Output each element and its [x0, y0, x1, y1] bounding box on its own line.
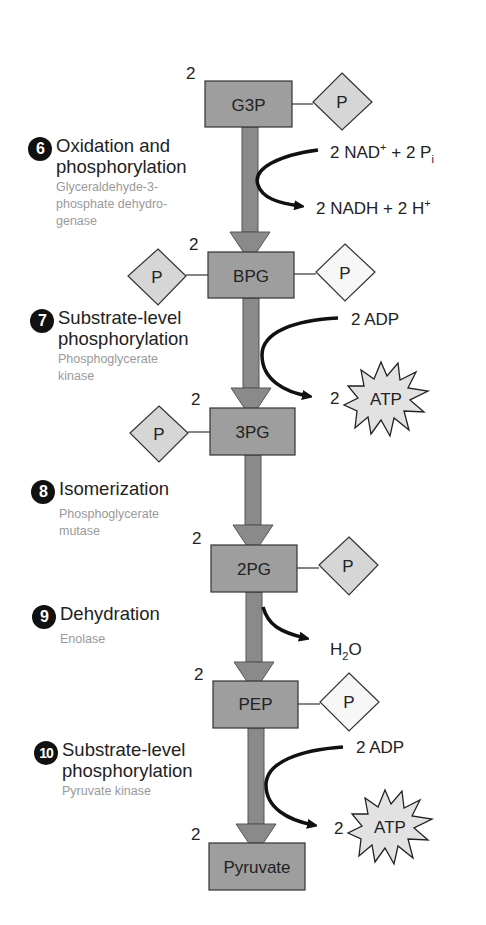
step-title-line2: phosphorylation: [56, 156, 187, 177]
step-title-line1: Oxidation and: [56, 135, 187, 156]
enzyme-name: Phosphoglycerate mutase: [59, 506, 169, 540]
step-number-badge: 8: [31, 480, 55, 504]
adp-input: 2 ADP: [356, 738, 404, 757]
count-label: 2: [189, 235, 198, 254]
step-title-line2: phosphorylation: [62, 760, 193, 781]
main-arrow-3pg-2pg: [233, 455, 273, 555]
enzyme-name: Pyruvate kinase: [62, 783, 193, 800]
molecule-2pg: 2 2PG P: [192, 529, 378, 595]
step-title-line2: phosphorylation: [58, 328, 189, 349]
nad-input: 2 NAD+ + 2 Pi: [330, 141, 434, 165]
svg-text:P: P: [343, 693, 354, 712]
svg-text:P: P: [339, 264, 350, 283]
water-output: H2O: [330, 640, 362, 662]
atp-count: 2: [330, 389, 339, 408]
step-number-badge: 10: [34, 741, 58, 765]
step-number-badge: 6: [28, 137, 52, 161]
molecule-label: 2PG: [237, 560, 271, 579]
count-label: 2: [186, 64, 195, 83]
phosphate-diamond: P: [320, 673, 379, 731]
molecule-label: G3P: [231, 96, 265, 115]
molecule-g3p: 2 G3P P: [186, 64, 372, 130]
step-title-line1: Dehydration: [60, 603, 160, 624]
count-label: 2: [194, 665, 203, 684]
step-number-badge: 7: [30, 309, 54, 333]
atp-burst: ATP: [348, 790, 432, 864]
molecule-label: 3PG: [235, 423, 269, 442]
step-title-line1: Isomerization: [59, 478, 169, 499]
count-label: 2: [191, 390, 200, 409]
svg-text:P: P: [342, 557, 353, 576]
atp-count: 2: [334, 819, 343, 838]
step-7: 7 Substrate-level phosphorylation Phosph…: [30, 307, 189, 385]
side-reaction-step9: H2O: [263, 607, 362, 662]
svg-text:ATP: ATP: [374, 818, 406, 837]
main-arrow-bpg-3pg: [231, 298, 271, 418]
step-8: 8 Isomerization Phosphoglycerate mutase: [31, 478, 169, 540]
molecule-label: Pyruvate: [223, 858, 290, 877]
svg-text:ATP: ATP: [370, 390, 402, 409]
count-label: 2: [192, 529, 201, 548]
adp-input: 2 ADP: [351, 310, 399, 329]
phosphate-diamond: P: [313, 73, 372, 130]
enzyme-name: Enolase: [60, 631, 160, 648]
svg-text:P: P: [153, 425, 164, 444]
count-label: 2: [191, 825, 200, 844]
phosphate-diamond-left: P: [128, 249, 186, 305]
enzyme-name: Phosphoglycerate kinase: [58, 351, 189, 385]
main-arrow-pep-pyruvate: [236, 728, 276, 854]
step-title-line1: Substrate-level: [58, 307, 189, 328]
svg-text:P: P: [151, 268, 162, 287]
nadh-output: 2 NADH + 2 H+: [316, 197, 431, 218]
atp-burst: ATP: [344, 362, 428, 436]
main-arrow-2pg-pep: [234, 592, 274, 692]
phosphate-diamond-right: P: [316, 244, 375, 301]
step-10: 10 Substrate-level phosphorylation Pyruv…: [34, 739, 193, 800]
molecule-label: PEP: [238, 695, 272, 714]
phosphate-diamond: P: [319, 537, 378, 595]
molecule-pep: 2 PEP P: [194, 665, 379, 731]
molecule-3pg: 2 3PG P: [130, 390, 295, 462]
step-6: 6 Oxidation and phosphorylation Glyceral…: [28, 135, 187, 230]
step-9: 9 Dehydration Enolase: [32, 603, 160, 648]
molecule-label: BPG: [233, 267, 269, 286]
phosphate-diamond: P: [130, 406, 188, 462]
side-reaction-step6: 2 NAD+ + 2 Pi 2 NADH + 2 H+: [257, 141, 434, 218]
enzyme-name: Glyceraldehyde-3- phosphate dehydro- gen…: [56, 179, 187, 230]
step-title-line1: Substrate-level: [62, 739, 193, 760]
step-number-badge: 9: [32, 605, 56, 629]
svg-text:P: P: [336, 93, 347, 112]
